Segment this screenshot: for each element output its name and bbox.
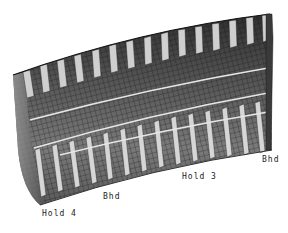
label-hold-4: Hold 4 bbox=[42, 210, 77, 218]
label-bulkhead-right: Bhd bbox=[262, 156, 279, 164]
ship-structure-fem-mesh bbox=[0, 0, 288, 233]
end-bulkhead bbox=[266, 14, 273, 150]
label-hold-3: Hold 3 bbox=[182, 173, 217, 181]
label-bulkhead-left: Bhd bbox=[103, 193, 120, 201]
